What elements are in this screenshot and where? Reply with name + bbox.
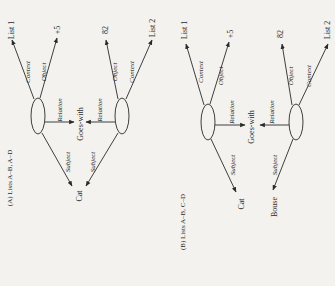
diagram-b [186, 42, 328, 192]
node-plus5-b: +5 [226, 30, 235, 39]
node-goes-with-b: Goes-with [247, 110, 256, 143]
label-object-1-b: Object [217, 66, 225, 86]
label-subject-1-a: Subject [64, 151, 72, 173]
node-cat-a: Cat [75, 190, 84, 202]
label-object-2-a: Object [111, 62, 119, 82]
proposition-node-2 [289, 104, 303, 140]
label-context-1-a: Context [24, 60, 32, 83]
label-subject-2-a: Subject [89, 151, 97, 173]
label-object-2-b: Object [287, 66, 295, 86]
label-context-2-a: Context [128, 60, 136, 83]
edge-context-2 [299, 44, 328, 105]
label-subject-2-b: Subject [271, 154, 279, 176]
label-object-1-a: Object [40, 62, 48, 82]
node-82-b: 82 [276, 30, 285, 38]
label-relation-1-a: Relation [56, 98, 64, 123]
semantic-network-figure: List 1 +5 82 List 2 Goes-with Cat Contex… [0, 0, 335, 286]
node-list2-a: List 2 [148, 19, 157, 37]
label-context-1-b: Context [197, 60, 205, 83]
node-list1-a: List 1 [7, 21, 16, 39]
node-bouse-b: Bouse [270, 197, 279, 217]
node-list1-b: List 1 [180, 21, 189, 39]
label-relation-2-a: Relation [96, 98, 104, 123]
label-relation-2-b: Relation [268, 100, 276, 125]
label-relation-1-b: Relation [228, 100, 236, 125]
label-context-2-b: Context [305, 64, 313, 87]
node-list2-b: List 2 [323, 21, 332, 39]
node-cat-b: Cat [237, 198, 246, 210]
node-goes-with-a: Goes-with [76, 107, 85, 140]
label-subject-1-b: Subject [229, 154, 237, 176]
proposition-node-1 [31, 98, 45, 134]
proposition-node-1 [201, 104, 215, 140]
node-plus5-a: +5 [53, 26, 62, 35]
caption-b: (B) Lists A–B, C–D [179, 194, 187, 250]
proposition-node-2 [115, 98, 129, 134]
node-82-a: 82 [101, 26, 110, 34]
caption-a: (A) Lists A–B, A–D [6, 150, 14, 206]
